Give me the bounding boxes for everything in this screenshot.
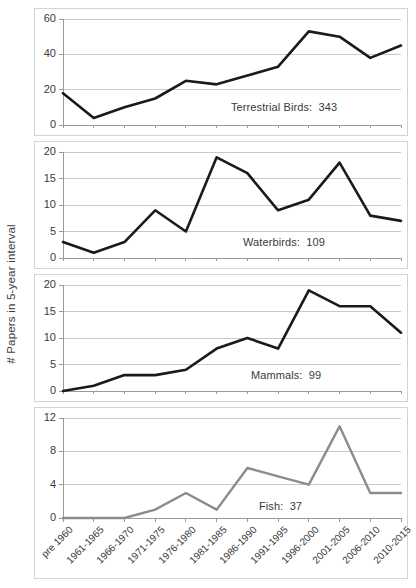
- x-axis-labels: pre 19601961-19651966-19701971-19751976-…: [35, 524, 409, 584]
- figure-container: # Papers in 5-year interval 0204060Terre…: [0, 0, 416, 588]
- y-tick-label: 10: [35, 198, 56, 210]
- y-tick-label: 40: [35, 47, 56, 59]
- panel-annotation-mammals: Mammals: 99: [251, 369, 321, 381]
- y-tick-label: 12: [35, 411, 56, 423]
- y-axis-title-text: # Papers in 5-year interval: [5, 224, 17, 364]
- y-tick-label: 20: [35, 83, 56, 95]
- y-tick-label: 0: [35, 251, 56, 263]
- y-tick-label: 20: [35, 145, 56, 157]
- y-tick-label: 4: [35, 478, 56, 490]
- data-series-line: [63, 426, 401, 518]
- plot-area-terrestrial-birds: [35, 9, 409, 137]
- panel-annotation-waterbirds: Waterbirds: 109: [243, 236, 325, 248]
- chart-panel-fish: 04812Fish: 37pre 19601961-19651966-19701…: [34, 407, 408, 579]
- y-tick-label: 15: [35, 305, 56, 317]
- chart-panel-mammals: 05101520Mammals: 99: [34, 274, 408, 402]
- panel-stack: 0204060Terrestrial Birds: 34305101520Wat…: [34, 8, 410, 580]
- y-tick-label: 60: [35, 12, 56, 24]
- y-tick-label: 5: [35, 225, 56, 237]
- panel-annotation-terrestrial-birds: Terrestrial Birds: 343: [231, 101, 337, 113]
- x-tick-label: 2006-2010: [325, 524, 382, 581]
- y-tick-label: 5: [35, 358, 56, 370]
- y-tick-label: 0: [35, 511, 56, 523]
- y-tick-label: 0: [35, 118, 56, 130]
- y-tick-label: 0: [35, 384, 56, 396]
- chart-panel-waterbirds: 05101520Waterbirds: 109: [34, 141, 408, 269]
- y-tick-label: 10: [35, 331, 56, 343]
- x-tick-label: pre 1960: [18, 524, 75, 581]
- plot-area-mammals: [35, 275, 409, 403]
- panel-annotation-fish: Fish: 37: [259, 500, 302, 512]
- chart-panel-terrestrial-birds: 0204060Terrestrial Birds: 343: [34, 8, 408, 136]
- y-axis-title: # Papers in 5-year interval: [2, 176, 20, 412]
- plot-area-waterbirds: [35, 142, 409, 270]
- y-tick-label: 15: [35, 172, 56, 184]
- y-tick-label: 8: [35, 444, 56, 456]
- data-series-line: [63, 290, 401, 391]
- y-tick-label: 20: [35, 278, 56, 290]
